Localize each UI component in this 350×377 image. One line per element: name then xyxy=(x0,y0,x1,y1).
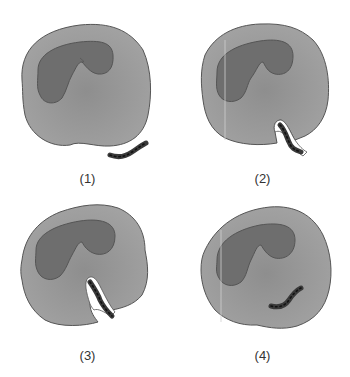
panel-4: (4) xyxy=(175,190,350,377)
cell-diagram-1 xyxy=(0,0,175,190)
panel-label-1: (1) xyxy=(0,171,175,186)
panel-3: (3) xyxy=(0,190,175,377)
panel-label-3: (3) xyxy=(0,348,175,363)
panel-label-4: (4) xyxy=(175,348,350,363)
panel-2: (2) xyxy=(175,0,350,188)
panel-label-2: (2) xyxy=(175,171,350,186)
panel-1: (1) xyxy=(0,0,175,188)
cell-diagram-2 xyxy=(175,0,350,190)
